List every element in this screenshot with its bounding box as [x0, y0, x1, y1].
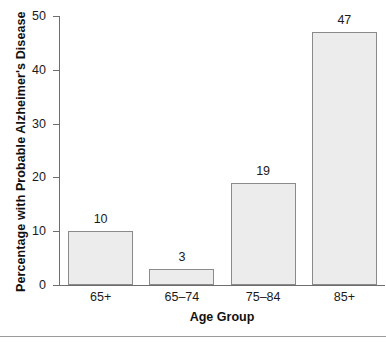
bottom-divider-rule [0, 336, 386, 337]
y-tick-mark [53, 177, 59, 178]
bar[interactable] [312, 32, 377, 285]
y-tick-label: 10 [16, 225, 46, 238]
y-tick-label: 0 [16, 279, 46, 292]
bar[interactable] [231, 183, 296, 285]
bar[interactable] [149, 269, 214, 285]
x-tick-label: 75–84 [218, 291, 308, 304]
x-tick-label: 85+ [299, 291, 386, 304]
plot-area: 1031947 [60, 16, 385, 285]
y-axis-title: Percentage with Probable Alzheimer's Dis… [10, 12, 32, 292]
y-tick-label: 30 [16, 118, 46, 131]
y-tick-mark [53, 231, 59, 232]
y-tick-label: 20 [16, 171, 46, 184]
x-tick-label: 65–74 [137, 291, 227, 304]
bar[interactable] [68, 231, 133, 285]
x-axis-title: Age Group [59, 310, 385, 324]
y-tick-mark [53, 16, 59, 17]
y-tick-mark [53, 285, 59, 286]
bar-chart-figure: Percentage with Probable Alzheimer's Dis… [0, 0, 386, 347]
bar-value-label: 19 [233, 165, 293, 178]
x-axis-line [59, 285, 385, 286]
y-tick-mark [53, 70, 59, 71]
y-tick-mark [53, 124, 59, 125]
y-tick-label: 50 [16, 10, 46, 23]
bar-value-label: 3 [152, 251, 212, 264]
x-tick-label: 65+ [56, 291, 146, 304]
bar-value-label: 10 [71, 213, 131, 226]
y-tick-label: 40 [16, 64, 46, 77]
bar-value-label: 47 [314, 14, 374, 27]
